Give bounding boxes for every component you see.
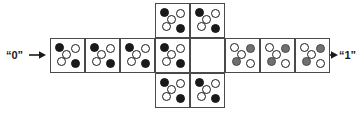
output-label-one: “1”	[339, 50, 356, 61]
dot-white-center-lower	[197, 22, 206, 31]
arrow-right-icon-input	[29, 50, 47, 60]
dot-white-center-lower	[162, 22, 171, 31]
dot-black-bottom-right	[106, 59, 115, 68]
dot-gray-center-lower	[302, 57, 311, 66]
dot-white-top-right	[176, 79, 185, 88]
dot-black-bottom-right	[176, 94, 185, 103]
dot-white-top-right	[176, 9, 185, 18]
dot-white-top-right	[71, 44, 80, 53]
cell-mid-8	[295, 38, 330, 73]
dot-white-top-right	[141, 44, 150, 53]
dot-black-bottom-right	[211, 94, 220, 103]
dot-gray-top-right	[246, 44, 255, 53]
cell-bot-2	[190, 73, 225, 108]
cell-mid-5	[190, 38, 225, 73]
dot-white-center-lower	[127, 57, 136, 66]
dot-white-top-right	[211, 79, 220, 88]
dot-white-center-lower	[92, 57, 101, 66]
dot-gray-center-lower	[232, 57, 241, 66]
dot-white-center-lower	[162, 92, 171, 101]
dot-white-top-right	[176, 44, 185, 53]
dot-white-center-lower	[162, 57, 171, 66]
dot-white-top-right	[211, 9, 220, 18]
dot-white-center-lower	[57, 57, 66, 66]
cross-cell-diagram: “0” “1”	[0, 0, 363, 113]
dot-gray-top-right	[281, 44, 290, 53]
dot-white-center-lower	[197, 92, 206, 101]
cell-bot-1	[155, 73, 190, 108]
dot-white-bottom-right	[281, 59, 290, 68]
cell-mid-6	[225, 38, 260, 73]
dot-gray-center-lower	[267, 57, 276, 66]
cell-mid-4	[155, 38, 190, 73]
dot-black-bottom-right	[71, 59, 80, 68]
dot-black-bottom-right	[211, 24, 220, 33]
cell-top-1	[155, 3, 190, 38]
dot-white-bottom-right	[316, 59, 325, 68]
cell-mid-2	[85, 38, 120, 73]
cell-mid-7	[260, 38, 295, 73]
input-label-zero: “0”	[6, 50, 23, 61]
cell-mid-1	[50, 38, 85, 73]
dot-black-bottom-right	[176, 59, 185, 68]
dot-black-bottom-right	[176, 24, 185, 33]
dot-gray-top-right	[316, 44, 325, 53]
cell-mid-3	[120, 38, 155, 73]
cell-top-2	[190, 3, 225, 38]
dot-white-top-right	[106, 44, 115, 53]
dot-white-bottom-right	[246, 59, 255, 68]
dot-black-bottom-right	[141, 59, 150, 68]
